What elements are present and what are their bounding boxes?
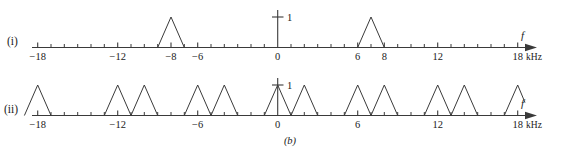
tick-label-neg18: −18 — [29, 51, 45, 62]
panel-ii: (ii) — [4, 78, 542, 130]
tick-label-pos6: 6 — [355, 51, 360, 62]
panel-ii-axis-unit-label: kHz — [526, 120, 542, 130]
tick-label-pos18: 18 — [512, 51, 523, 62]
tick-label-neg6: −6 — [192, 51, 203, 62]
panel-ii-axis-arrowhead — [525, 112, 537, 119]
tick-label-pos18: 18 — [512, 119, 523, 130]
panel-i-axis-unit-label: kHz — [526, 52, 542, 62]
tick-label-neg12: −12 — [109, 119, 125, 130]
panel-i-axis-variable-label: f — [521, 29, 526, 41]
tick-label-zero: 0 — [275, 119, 280, 130]
replica-triangle-neg4 — [211, 85, 238, 116]
panel-i: (i) — [7, 10, 542, 62]
figure-canvas: (i) — [0, 0, 562, 148]
replica-triangle-pos8 — [371, 85, 398, 116]
replica-triangle-pos14 — [451, 85, 478, 116]
panel-ii-axis-variable-label: f — [521, 97, 526, 109]
panel-i-triangle-positive — [358, 17, 385, 48]
figure-caption: (b) — [284, 135, 297, 147]
tick-label-pos8: 8 — [382, 51, 387, 62]
tick-label-pos6: 6 — [355, 119, 360, 130]
panel-ii-amplitude-label: 1 — [287, 80, 292, 91]
panel-i-axis-arrowhead — [525, 44, 537, 51]
panel-ii-spectrum-replicas — [24, 85, 525, 116]
tick-label-zero: 0 — [275, 51, 280, 62]
panel-i-tick-labels: −18 −12 −8 −6 0 6 8 12 18 — [29, 51, 522, 62]
panel-i-amplitude-label: 1 — [287, 12, 292, 23]
tick-label-pos12: 12 — [432, 51, 443, 62]
replica-triangle-neg10 — [131, 85, 158, 116]
panel-ii-tick-labels: −18 −12 −6 0 6 12 18 — [29, 119, 522, 130]
tick-label-neg12: −12 — [109, 51, 125, 62]
panel-i-label: (i) — [7, 35, 18, 48]
tick-label-pos12: 12 — [432, 119, 443, 130]
panel-ii-label: (ii) — [4, 103, 18, 116]
replica-triangle-pos2 — [291, 85, 318, 116]
tick-label-neg6: −6 — [192, 119, 203, 130]
spectrum-figure: (i) — [0, 0, 562, 148]
tick-label-neg8: −8 — [165, 51, 176, 62]
tick-label-neg18: −18 — [29, 119, 45, 130]
